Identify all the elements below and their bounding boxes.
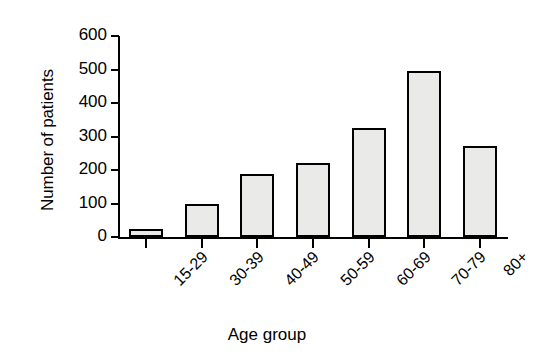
x-tick-mark-60-69 xyxy=(368,239,370,248)
x-tick-label-80+: 80+ xyxy=(500,248,532,280)
y-tick-mark xyxy=(111,69,119,71)
x-axis-title: Age group xyxy=(0,325,534,345)
y-tick-label: 600 xyxy=(79,25,107,45)
y-tick-label: 400 xyxy=(79,92,107,112)
x-tick-label-40-49: 40-49 xyxy=(281,248,323,290)
y-tick-label: 300 xyxy=(79,126,107,146)
y-tick-label: 100 xyxy=(79,193,107,213)
y-tick-mark xyxy=(111,203,119,205)
x-tick-label-60-69: 60-69 xyxy=(393,248,435,290)
bar-70-79 xyxy=(407,71,441,237)
bar-15-29 xyxy=(129,229,163,237)
x-tick-mark-80+ xyxy=(479,239,481,248)
plot-area: 0100200300400500600 xyxy=(118,36,508,237)
y-tick-mark xyxy=(111,169,119,171)
x-tick-label-30-39: 30-39 xyxy=(226,248,268,290)
x-tick-mark-40-49 xyxy=(256,239,258,248)
bar-40-49 xyxy=(240,174,274,237)
x-tick-mark-30-39 xyxy=(201,239,203,248)
x-tick-label-15-29: 15-29 xyxy=(170,248,212,290)
bar-30-39 xyxy=(185,204,219,237)
y-tick-label: 200 xyxy=(79,159,107,179)
bar-50-59 xyxy=(296,163,330,237)
bar-60-69 xyxy=(352,128,386,237)
y-tick-mark xyxy=(111,136,119,138)
x-tick-mark-70-79 xyxy=(423,239,425,248)
x-tick-label-50-59: 50-59 xyxy=(337,248,379,290)
bar-chart: Number of patients 0100200300400500600 1… xyxy=(0,0,534,361)
y-axis-title: Number of patients xyxy=(38,30,58,250)
y-tick-label: 0 xyxy=(98,226,107,246)
x-tick-mark-50-59 xyxy=(312,239,314,248)
x-tick-mark-15-29 xyxy=(145,239,147,248)
bar-80+ xyxy=(463,146,497,237)
x-tick-label-70-79: 70-79 xyxy=(448,248,490,290)
y-tick-mark xyxy=(111,35,119,37)
y-tick-mark xyxy=(111,236,119,238)
y-tick-label: 500 xyxy=(79,59,107,79)
y-tick-mark xyxy=(111,102,119,104)
